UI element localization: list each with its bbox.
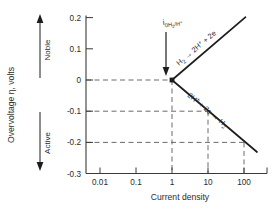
y-tick-label-minus-0-3: -0.3 — [67, 170, 82, 179]
anodic-branch-line — [172, 17, 246, 80]
x-tick-label-10: 10 — [203, 178, 213, 187]
y-tick-label-0: 0 — [76, 76, 81, 85]
noble-arrow-head-icon — [37, 14, 44, 23]
x-tick-label-1: 1 — [170, 178, 175, 187]
exchange-current-marker — [170, 78, 175, 83]
y-tick-label-0-1: 0.1 — [70, 45, 82, 54]
x-axis-title: Current density — [151, 192, 210, 202]
x-tick-label-0-1: 0.1 — [130, 178, 142, 187]
noble-direction-label: Noble — [43, 39, 52, 60]
active-arrow-head-icon — [37, 162, 44, 171]
anodic-reaction-label: H2 → 2H+ + 2e — [174, 28, 218, 68]
anodic-reaction-annotation: H2 → 2H+ + 2e — [174, 28, 218, 68]
x-tick-label-100: 100 — [237, 178, 251, 187]
y-axis-tick-labels: 0.2 0.1 0 -0.1 -0.2 -0.3 — [67, 14, 82, 179]
noble-direction-indicator: Noble — [37, 14, 52, 78]
active-direction-label: Active — [43, 132, 52, 154]
evans-polarization-diagram: 0.2 0.1 0 -0.1 -0.2 -0.3 0.01 0.1 1 10 1… — [0, 0, 274, 210]
exchange-current-label: i0H2/H+ — [162, 16, 183, 30]
chart-canvas: 0.2 0.1 0 -0.1 -0.2 -0.3 0.01 0.1 1 10 1… — [0, 0, 274, 210]
y-tick-label-minus-0-2: -0.2 — [67, 138, 82, 147]
y-tick-label-0-2: 0.2 — [70, 14, 82, 23]
cathodic-reaction-annotation: 2H+ + 2e → H2 — [185, 90, 230, 130]
x-axis-tick-labels: 0.01 0.1 1 10 100 — [92, 178, 251, 187]
x-axis-ticks — [100, 168, 267, 174]
y-axis-ticks — [86, 18, 93, 174]
x-tick-label-0-01: 0.01 — [92, 178, 108, 187]
y-axis-title: Overvoltage η, volts — [6, 67, 16, 143]
active-direction-indicator: Active — [37, 112, 52, 171]
exchange-current-arrow-head-icon — [163, 67, 170, 76]
y-tick-label-minus-0-1: -0.1 — [67, 107, 82, 116]
axes — [86, 16, 267, 174]
cathodic-reaction-label: 2H+ + 2e → H2 — [185, 90, 230, 130]
